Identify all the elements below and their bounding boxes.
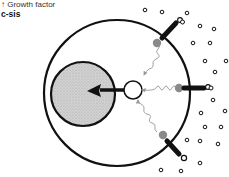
wavy-signal-right bbox=[142, 86, 176, 90]
signaling-diagram bbox=[0, 0, 229, 177]
receptor-right bbox=[175, 84, 213, 92]
wavy-signal-top bbox=[144, 44, 160, 75]
receptor-bottom bbox=[159, 131, 187, 161]
wavy-signal-bottom bbox=[138, 100, 157, 132]
signal-transducer bbox=[124, 81, 142, 99]
nucleus bbox=[51, 62, 115, 126]
